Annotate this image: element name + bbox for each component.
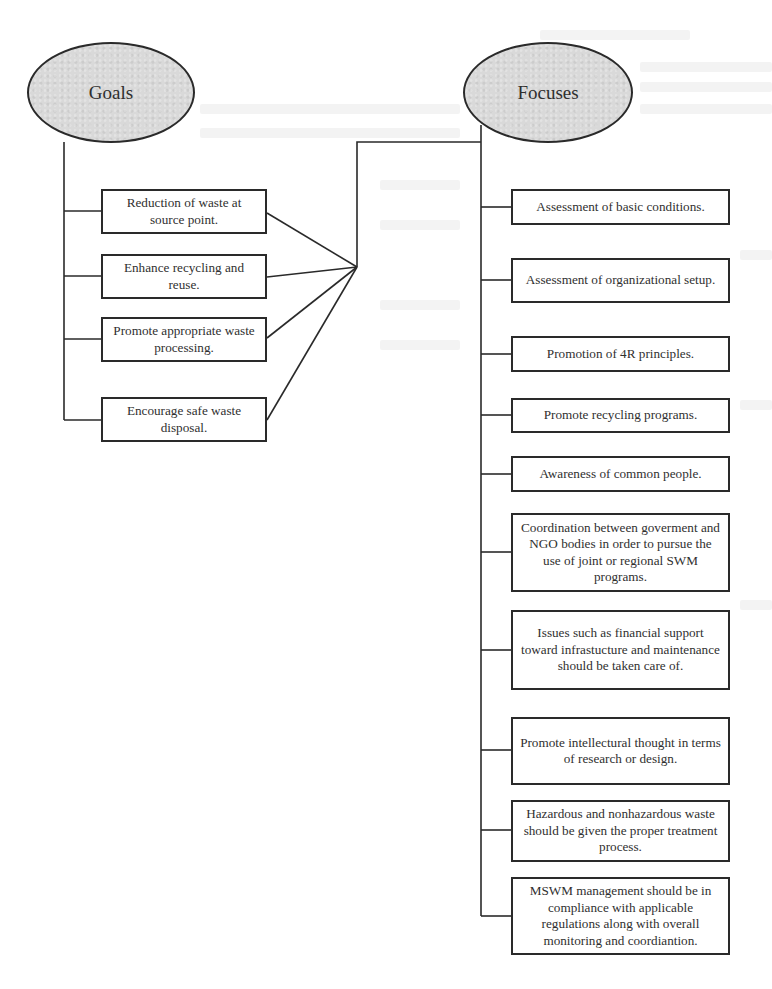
converge-line xyxy=(267,267,357,420)
focus-box: Promote intellectural thought in terms o… xyxy=(511,717,730,785)
focus-box: Issues such as financial support toward … xyxy=(511,610,730,690)
goal-box: Promote appropriate waste processing. xyxy=(101,317,267,362)
focus-box: Promotion of 4R principles. xyxy=(511,336,730,372)
goal-box: Encourage safe waste disposal. xyxy=(101,397,267,442)
goals-node: Goals xyxy=(27,42,195,143)
focuses-node: Focuses xyxy=(463,42,633,143)
converge-line xyxy=(267,267,357,338)
focus-box: Promote recycling programs. xyxy=(511,398,730,433)
focus-box: Assessment of basic conditions. xyxy=(511,189,730,225)
goals-focuses-diagram: Goals Focuses Reduction of waste at sour… xyxy=(0,0,772,989)
focus-box: Hazardous and nonhazardous waste should … xyxy=(511,800,730,862)
focus-box: Coordination between goverment and NGO b… xyxy=(511,513,730,592)
goal-box: Enhance recycling and reuse. xyxy=(101,254,267,299)
converge-line xyxy=(267,213,357,267)
focus-box: Assessment of organizational setup. xyxy=(511,258,730,303)
focus-box: MSWM management should be in compliance … xyxy=(511,877,730,955)
goals-to-focuses-link xyxy=(357,142,481,267)
focuses-title: Focuses xyxy=(517,82,578,104)
goals-title: Goals xyxy=(89,82,133,104)
goal-box: Reduction of waste at source point. xyxy=(101,189,267,234)
converge-line xyxy=(267,267,357,277)
focus-box: Awareness of common people. xyxy=(511,456,730,492)
